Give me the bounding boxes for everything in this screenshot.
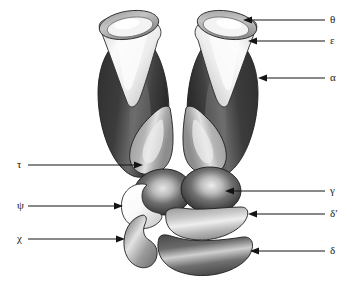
leader-arrow-epsilon <box>248 37 325 44</box>
leader-arrow-alpha <box>258 74 325 81</box>
label-chi: χ <box>17 233 22 244</box>
label-epsilon: ε <box>330 35 335 46</box>
subunit-delta-prime <box>166 207 248 240</box>
label-tau: τ <box>17 159 21 170</box>
label-psi: ψ <box>17 200 24 211</box>
diagram-canvas <box>0 0 356 283</box>
leader-arrow-delta <box>250 247 325 254</box>
leader-arrow-delta-prime <box>248 210 325 217</box>
label-delta: δ <box>330 245 335 256</box>
label-gamma: γ <box>330 185 335 196</box>
label-theta: θ <box>330 14 335 25</box>
protein-complex-diagram: θ ε α γ δ′ δ τ ψ χ <box>0 0 356 283</box>
leader-arrow-psi <box>28 202 123 209</box>
leader-arrow-chi <box>28 235 125 242</box>
label-alpha: α <box>330 72 336 83</box>
subunit-delta <box>158 235 253 276</box>
label-delta-prime: δ′ <box>330 208 338 219</box>
